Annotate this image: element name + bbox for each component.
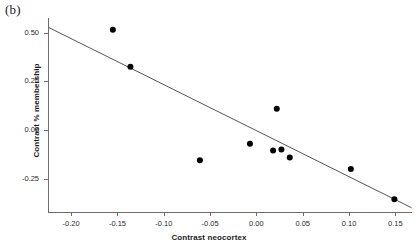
data-point — [287, 154, 293, 160]
x-tick-mark — [71, 212, 72, 216]
data-point — [348, 166, 354, 172]
data-point — [197, 157, 203, 163]
plot-area — [48, 18, 412, 212]
data-point — [391, 196, 397, 202]
x-tick-label: 0.15 — [388, 219, 403, 228]
x-tick-label: 0.10 — [342, 219, 357, 228]
regression-line — [48, 27, 411, 207]
x-tick-mark — [395, 212, 396, 216]
data-point — [247, 141, 253, 147]
x-tick-label: -0.10 — [155, 219, 172, 228]
panel-label: (b) — [5, 2, 21, 18]
x-tick-label: 0.00 — [249, 219, 264, 228]
x-tick-mark — [256, 212, 257, 216]
x-axis-line — [48, 212, 412, 213]
x-tick-label: 0.05 — [295, 219, 310, 228]
x-axis-title: Contrast neocortex — [0, 233, 418, 242]
x-tick-mark — [303, 212, 304, 216]
x-tick-mark — [349, 212, 350, 216]
x-tick-mark — [164, 212, 165, 216]
x-tick-label: -0.05 — [202, 219, 219, 228]
figure-panel-b: (b) 0.500.250.00-0.25 -0.20-0.15-0.10-0.… — [0, 0, 418, 251]
y-axis-title: Contrast % membership — [32, 11, 41, 211]
trend-line — [48, 27, 411, 207]
data-point — [127, 64, 133, 70]
data-point — [274, 106, 280, 112]
scatter-plot-canvas — [48, 18, 412, 212]
data-points — [110, 27, 398, 203]
data-point — [110, 27, 116, 33]
x-tick-label: -0.20 — [63, 219, 80, 228]
data-point — [270, 148, 276, 154]
x-tick-label: -0.15 — [109, 219, 126, 228]
data-point — [278, 147, 284, 153]
x-tick-mark — [117, 212, 118, 216]
x-tick-mark — [210, 212, 211, 216]
